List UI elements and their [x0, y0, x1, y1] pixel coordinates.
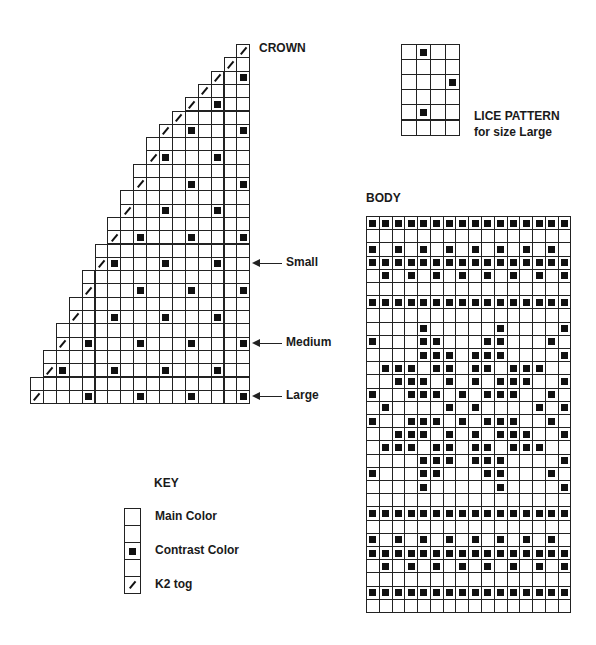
- main-cell: [133, 350, 147, 364]
- main-cell: [224, 377, 238, 391]
- contrast-cell: [455, 414, 469, 428]
- contrast-cell: [392, 506, 406, 520]
- contrast-cell: [443, 295, 457, 309]
- main-cell: [545, 322, 559, 336]
- main-cell: [146, 350, 160, 364]
- contrast-cell: [430, 440, 444, 454]
- contrast-cell: [545, 216, 559, 230]
- contrast-cell: [507, 414, 521, 428]
- main-cell: [172, 217, 186, 231]
- main-cell: [558, 493, 572, 507]
- main-cell: [455, 454, 469, 468]
- contrast-cell: [507, 374, 521, 388]
- main-cell: [107, 377, 121, 391]
- main-cell: [224, 111, 238, 125]
- main-cell: [159, 270, 173, 284]
- main-cell: [519, 559, 533, 573]
- contrast-cell: [558, 374, 572, 388]
- main-cell: [404, 467, 418, 481]
- contrast-cell: [430, 295, 444, 309]
- main-cell: [468, 493, 482, 507]
- contrast-cell: [558, 506, 572, 520]
- contrast-cell: [404, 374, 418, 388]
- key-label-main-color: Main Color: [155, 509, 217, 523]
- contrast-cell: [443, 216, 457, 230]
- main-cell: [120, 323, 134, 337]
- main-cell: [430, 89, 446, 105]
- main-cell: [133, 363, 147, 377]
- contrast-cell: [455, 216, 469, 230]
- main-cell: [468, 282, 482, 296]
- main-cell: [545, 599, 559, 613]
- main-cell: [146, 323, 160, 337]
- main-cell: [198, 204, 212, 218]
- main-cell: [120, 363, 134, 377]
- main-cell: [236, 137, 250, 151]
- main-cell: [185, 150, 199, 164]
- main-cell: [404, 242, 418, 256]
- main-cell: [532, 414, 546, 428]
- contrast-cell: [545, 295, 559, 309]
- main-cell: [185, 190, 199, 204]
- contrast-cell: [430, 348, 444, 362]
- main-cell: [392, 335, 406, 349]
- k2tog-cell: [224, 57, 238, 71]
- main-cell: [198, 164, 212, 178]
- main-cell: [455, 361, 469, 375]
- main-cell: [494, 401, 508, 415]
- contrast-cell: [443, 506, 457, 520]
- main-cell: [146, 310, 160, 324]
- main-cell: [545, 308, 559, 322]
- contrast-cell: [159, 204, 173, 218]
- main-cell: [172, 270, 186, 284]
- contrast-cell: [392, 374, 406, 388]
- contrast-cell: [404, 440, 418, 454]
- contrast-cell: [417, 427, 431, 441]
- main-cell: [519, 308, 533, 322]
- contrast-cell: [545, 414, 559, 428]
- contrast-cell: [545, 546, 559, 560]
- main-cell: [211, 377, 225, 391]
- main-cell: [82, 270, 96, 284]
- main-cell: [120, 283, 134, 297]
- main-cell: [224, 297, 238, 311]
- main-cell: [443, 467, 457, 481]
- main-cell: [198, 377, 212, 391]
- contrast-cell: [532, 361, 546, 375]
- main-cell: [519, 480, 533, 494]
- key-label-k2-tog: K2 tog: [155, 577, 192, 591]
- contrast-cell: [185, 177, 199, 191]
- contrast-cell: [417, 467, 431, 481]
- main-cell: [43, 390, 57, 404]
- size-label-small: Small: [286, 255, 318, 269]
- contrast-cell: [532, 401, 546, 415]
- contrast-cell: [107, 363, 121, 377]
- main-cell: [69, 377, 83, 391]
- main-cell: [198, 244, 212, 258]
- main-cell: [95, 297, 109, 311]
- main-cell: [519, 348, 533, 362]
- main-cell: [532, 493, 546, 507]
- main-cell: [392, 269, 406, 283]
- main-cell: [445, 120, 461, 136]
- main-cell: [198, 150, 212, 164]
- main-cell: [417, 401, 431, 415]
- main-cell: [430, 599, 444, 613]
- contrast-cell: [443, 242, 457, 256]
- contrast-cell: [133, 230, 147, 244]
- main-cell: [558, 599, 572, 613]
- main-cell: [404, 348, 418, 362]
- main-cell: [430, 44, 446, 60]
- contrast-cell: [455, 295, 469, 309]
- main-cell: [185, 270, 199, 284]
- main-cell: [366, 559, 380, 573]
- contrast-cell: [445, 74, 461, 90]
- main-cell: [532, 348, 546, 362]
- main-cell: [120, 297, 134, 311]
- main-cell: [211, 164, 225, 178]
- contrast-cell: [519, 546, 533, 560]
- contrast-cell: [494, 295, 508, 309]
- main-cell: [494, 520, 508, 534]
- main-cell: [507, 322, 521, 336]
- main-cell: [95, 350, 109, 364]
